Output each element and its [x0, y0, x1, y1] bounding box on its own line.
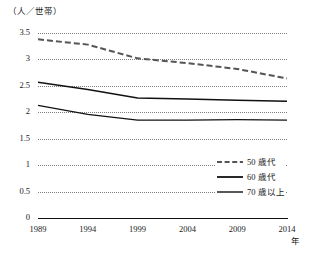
legend-item-50s[interactable]: 50 歳代	[216, 157, 286, 167]
legend-swatch-dashed	[217, 159, 243, 165]
x-axis-tick-label: 2014	[267, 224, 307, 234]
series-line-1	[38, 39, 287, 78]
line-chart: （人／世帯） 00.511.522.533.5 50 歳代 60 歳代 70 歳…	[0, 0, 309, 262]
x-axis-tick-label: 1989	[18, 224, 58, 234]
x-axis-tick-label: 2004	[167, 224, 207, 234]
legend-label-50s: 50 歳代	[247, 157, 276, 167]
series-line-2	[38, 82, 287, 101]
x-axis-tick-label: 1999	[118, 224, 158, 234]
chart-legend: 50 歳代 60 歳代 70 歳以上	[216, 157, 286, 197]
series-line-3	[38, 105, 287, 120]
legend-label-60s: 60 歳代	[247, 172, 276, 182]
series-layer	[0, 0, 309, 262]
x-axis-unit-label: 年	[291, 236, 300, 246]
legend-swatch-solid-60s	[217, 174, 243, 180]
x-axis-tick-label: 1994	[68, 224, 108, 234]
legend-label-70plus: 70 歳以上	[247, 187, 285, 197]
legend-swatch-solid-70plus	[217, 189, 243, 195]
legend-item-70plus[interactable]: 70 歳以上	[216, 187, 286, 197]
x-axis-tick-label: 2009	[217, 224, 257, 234]
legend-item-60s[interactable]: 60 歳代	[216, 172, 286, 182]
